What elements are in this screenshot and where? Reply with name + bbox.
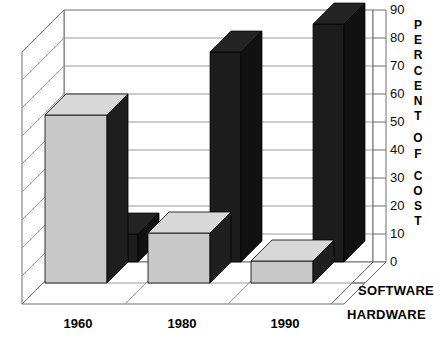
y-tick-80: 80 [390,31,404,44]
y-axis-title-char-o1: O [406,131,430,146]
y-tick-20: 20 [390,199,404,212]
y-axis-title-char-e1: E [406,33,430,48]
series-label-hardware: HARDWARE [347,308,426,322]
y-axis-title-char-e2: E [406,79,430,94]
y-tick-60: 60 [390,87,404,100]
x-label-1960: 1960 [48,317,108,331]
y-axis-title-char-r: R [406,48,430,63]
chart-3d-bar: 90 80 70 60 50 40 30 20 10 0 P E R C E N… [0,0,439,346]
bar-hardware-1960 [45,94,128,283]
y-axis-title-gap-2 [406,162,430,169]
y-axis-title-char-p: P [406,18,430,33]
x-label-1990: 1990 [255,317,315,331]
y-tick-30: 30 [390,171,404,184]
y-axis-title-gap-1 [406,124,430,131]
y-axis-title-char-t1: T [406,109,430,124]
bar-hardware-1980 [148,212,231,283]
series-label-software: SOFTWARE [358,284,434,298]
bar-software-1990 [313,3,365,262]
y-tick-90: 90 [390,3,404,16]
y-axis-title-char-c2: C [406,169,430,184]
x-label-1980: 1980 [152,317,212,331]
y-tick-0: 0 [390,255,397,268]
y-axis-title-char-n: N [406,94,430,109]
y-axis-frame [373,10,386,262]
y-axis-title-char-s: S [406,199,430,214]
y-tick-70: 70 [390,59,404,72]
y-tick-50: 50 [390,115,404,128]
y-axis-title-char-t2: T [406,214,430,229]
y-tick-10: 10 [390,227,404,240]
y-tick-40: 40 [390,143,404,156]
y-axis-title: P E R C E N T O F C O S T [406,18,430,230]
y-axis-title-char-c1: C [406,64,430,79]
y-axis-title-char-o2: O [406,184,430,199]
y-axis-title-char-f: F [406,147,430,162]
